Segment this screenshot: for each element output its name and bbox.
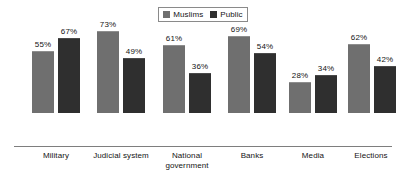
- bar-slot: 62%: [348, 1, 370, 113]
- x-axis-label: Elections: [330, 151, 401, 161]
- bar-muslims: [348, 44, 370, 113]
- bar-muslims: [32, 51, 54, 113]
- bar-value-label: 55%: [35, 40, 51, 49]
- bar-value-label: 62%: [351, 33, 367, 42]
- bar-slot: 28%: [289, 1, 311, 113]
- bar-slot: 36%: [189, 1, 211, 113]
- bar-value-label: 34%: [318, 64, 334, 73]
- bar-public: [58, 38, 80, 113]
- bar-group: 28%34%: [289, 1, 337, 113]
- bar-muslims: [97, 31, 119, 113]
- bar-muslims: [289, 82, 311, 113]
- bar-value-label: 42%: [377, 55, 393, 64]
- bar-group: 55%67%: [32, 1, 80, 113]
- bar-public: [123, 58, 145, 113]
- bar-slot: 61%: [163, 1, 185, 113]
- bar-group: 62%42%: [348, 1, 396, 113]
- bar-slot: 49%: [123, 1, 145, 113]
- bar-public: [254, 53, 276, 113]
- bar-slot: 73%: [97, 1, 119, 113]
- bar-value-label: 69%: [231, 25, 247, 34]
- bar-group: 69%54%: [228, 1, 276, 113]
- bar-public: [374, 66, 396, 113]
- bar-slot: 55%: [32, 1, 54, 113]
- bar-slot: 42%: [374, 1, 396, 113]
- bar-muslims: [228, 36, 250, 113]
- bar-group: 73%49%: [97, 1, 145, 113]
- bar-value-label: 61%: [166, 34, 182, 43]
- plot-area: 55%67%Military73%49%Judicial system61%36…: [0, 0, 401, 148]
- bar-slot: 69%: [228, 1, 250, 113]
- x-axis-line: [14, 146, 392, 147]
- bar-value-label: 28%: [292, 71, 308, 80]
- bar-value-label: 67%: [61, 27, 77, 36]
- bar-value-label: 54%: [257, 42, 273, 51]
- bar-value-label: 36%: [192, 62, 208, 71]
- bar-muslims: [163, 45, 185, 113]
- bar-group: 61%36%: [163, 1, 211, 113]
- bar-value-label: 49%: [126, 47, 142, 56]
- bar-public: [315, 75, 337, 113]
- grouped-bar-chart: Muslims Public 55%67%Military73%49%Judic…: [0, 0, 401, 182]
- bar-slot: 67%: [58, 1, 80, 113]
- bar-value-label: 73%: [100, 20, 116, 29]
- bar-slot: 34%: [315, 1, 337, 113]
- bar-public: [189, 73, 211, 113]
- bar-slot: 54%: [254, 1, 276, 113]
